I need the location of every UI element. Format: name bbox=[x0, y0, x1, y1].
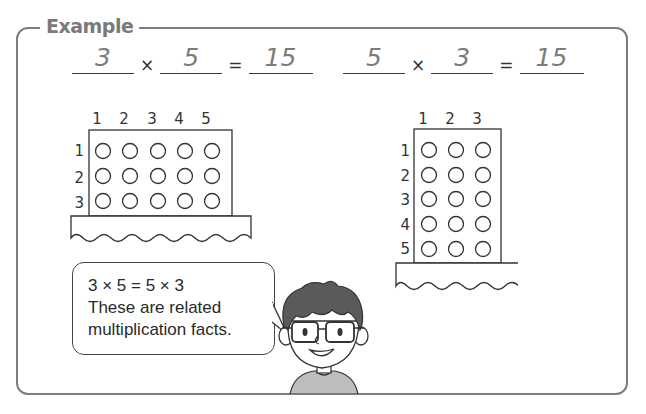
svg-text:1: 1 bbox=[418, 110, 428, 128]
svg-text:2: 2 bbox=[74, 169, 84, 187]
bubble-line-3: multiplication facts. bbox=[88, 319, 232, 341]
eq1-factor2-blank: 5 bbox=[160, 43, 222, 74]
svg-text:2: 2 bbox=[119, 110, 129, 128]
column-labels: 1 2 3 4 5 bbox=[92, 110, 211, 128]
eq1-factor2: 5 bbox=[183, 43, 199, 72]
svg-text:3: 3 bbox=[400, 191, 410, 209]
column-labels: 1 2 3 bbox=[418, 110, 482, 128]
svg-text:3: 3 bbox=[74, 194, 84, 212]
svg-text:5: 5 bbox=[400, 240, 410, 258]
svg-text:1: 1 bbox=[92, 110, 102, 128]
equation-2: 5 × 3 = 15 bbox=[343, 40, 584, 74]
eq2-factor2-blank: 3 bbox=[431, 43, 493, 74]
eq1-factor1: 3 bbox=[95, 43, 111, 72]
svg-text:1: 1 bbox=[74, 142, 84, 160]
array-base bbox=[396, 263, 518, 290]
svg-text:2: 2 bbox=[400, 167, 410, 185]
array-5x3: 1 2 3 1 2 3 4 5 bbox=[378, 104, 518, 294]
eq2-product-blank: 15 bbox=[520, 43, 584, 74]
svg-text:3: 3 bbox=[147, 110, 157, 128]
bubble-line-2: These are related bbox=[88, 297, 232, 319]
eq1-product-blank: 15 bbox=[249, 43, 313, 74]
boy-character-icon bbox=[272, 276, 372, 394]
eq1-factor1-blank: 3 bbox=[72, 43, 134, 74]
svg-text:4: 4 bbox=[400, 216, 410, 234]
svg-text:4: 4 bbox=[174, 110, 184, 128]
eq2-factor1: 5 bbox=[366, 43, 382, 72]
eq2-product: 15 bbox=[536, 43, 568, 72]
array-3x5: 1 2 3 4 5 1 2 3 bbox=[60, 104, 260, 254]
bubble-line-1: 3 × 5 = 5 × 3 bbox=[88, 275, 232, 297]
equals-sign: = bbox=[228, 56, 242, 74]
row-labels: 1 2 3 4 5 bbox=[400, 142, 410, 258]
eq2-factor2: 3 bbox=[454, 43, 470, 72]
svg-text:3: 3 bbox=[472, 110, 482, 128]
times-sign: × bbox=[140, 56, 154, 74]
equation-1: 3 × 5 = 15 bbox=[72, 40, 313, 74]
array-base bbox=[71, 216, 251, 242]
example-title-container: Example bbox=[40, 14, 139, 38]
svg-text:2: 2 bbox=[445, 110, 455, 128]
example-title: Example bbox=[46, 15, 133, 37]
svg-text:1: 1 bbox=[400, 142, 410, 160]
svg-text:5: 5 bbox=[201, 110, 211, 128]
equals-sign: = bbox=[499, 56, 513, 74]
times-sign: × bbox=[411, 56, 425, 74]
row-labels: 1 2 3 bbox=[74, 142, 84, 212]
speech-bubble: 3 × 5 = 5 × 3 These are related multipli… bbox=[72, 262, 275, 355]
eq2-factor1-blank: 5 bbox=[343, 43, 405, 74]
eq1-product: 15 bbox=[265, 43, 297, 72]
